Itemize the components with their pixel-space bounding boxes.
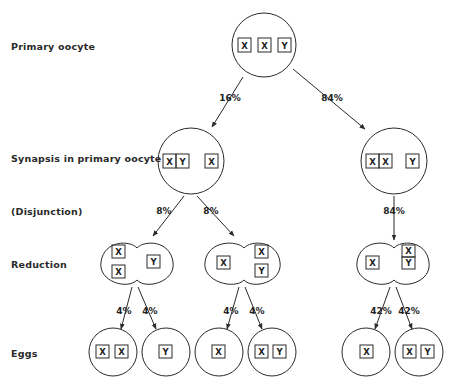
chrom-red1-r1: Y [149, 257, 157, 267]
pct-disj-right: 84% [383, 206, 405, 216]
pct-red1-a: 4% [116, 306, 131, 316]
chrom-syn-left-single: X [208, 157, 215, 167]
chrom-primary-1: X [241, 41, 248, 51]
chrom-egg5-1: X [363, 347, 370, 357]
stage-label-primary-oocyte: Primary oocyte [11, 41, 95, 52]
egg-1 [89, 328, 137, 376]
pct-disj-left-b: 8% [203, 206, 218, 216]
chrom-egg3-1: X [215, 347, 222, 357]
stage-label-synapsis: Synapsis in primary oocyte [11, 153, 162, 164]
chrom-syn-right-pair-1: X [369, 157, 376, 167]
chrom-egg1-1: X [99, 347, 106, 357]
pct-red1-b: 4% [142, 306, 157, 316]
chrom-egg2-1: Y [161, 347, 169, 357]
arrow-disj-left-a [153, 196, 184, 236]
chrom-red2-l1: X [220, 258, 227, 268]
chrom-egg4-1: X [258, 347, 265, 357]
chrom-primary-3: Y [280, 41, 288, 51]
pct-red3-a: 42% [370, 306, 392, 316]
chrom-syn-right-pair-2: X [382, 157, 389, 167]
chrom-egg1-2: X [118, 347, 125, 357]
reduction-cell-1 [101, 243, 173, 284]
pct-top-left: 16% [219, 93, 241, 103]
chrom-red2-r2: Y [257, 266, 265, 276]
stage-label-reduction: Reduction [11, 259, 67, 270]
pct-red3-b: 42% [398, 306, 420, 316]
chrom-primary-2: X [261, 41, 268, 51]
chrom-red1-l1: X [115, 247, 122, 257]
meiosis-xxy-diagram: X X Y X Y X X X Y X X Y X X Y X X Y X X … [0, 0, 453, 391]
chrom-red3-r2: Y [404, 258, 412, 268]
chrom-egg6-1: X [406, 347, 413, 357]
stage-label-eggs: Eggs [11, 348, 38, 359]
stage-label-disjunction: (Disjunction) [11, 206, 83, 217]
chrom-red2-r1: X [258, 247, 265, 257]
chrom-red3-r1: X [405, 246, 412, 256]
pct-top-right: 84% [321, 93, 343, 103]
reduction-cell-3 [357, 243, 429, 284]
chrom-syn-right-single: Y [408, 157, 416, 167]
egg-6 [395, 328, 443, 376]
chrom-egg6-2: Y [423, 347, 431, 357]
egg-4 [248, 328, 296, 376]
chrom-red3-l1: X [369, 258, 376, 268]
chrom-syn-left-pair-1: X [166, 157, 173, 167]
chrom-syn-left-pair-2: Y [178, 157, 186, 167]
pct-disj-left-a: 8% [156, 206, 171, 216]
chrom-egg4-2: Y [275, 347, 283, 357]
pct-red2-a: 4% [223, 306, 238, 316]
arrow-disj-left-b [197, 196, 234, 236]
chrom-red1-l2: X [115, 267, 122, 277]
pct-red2-b: 4% [249, 306, 264, 316]
reduction-cell-2 [205, 243, 280, 284]
